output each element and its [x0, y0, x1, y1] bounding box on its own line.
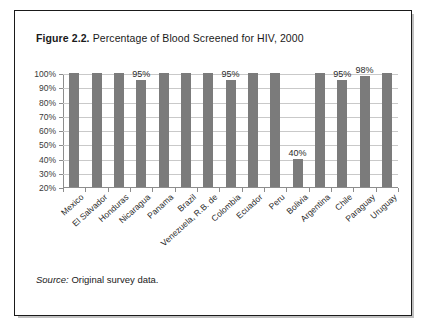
y-axis-tick-label: 80% — [39, 98, 56, 108]
y-axis-tick — [59, 174, 63, 175]
x-axis-tick — [175, 188, 176, 192]
x-axis-tick — [130, 188, 131, 192]
bar — [226, 80, 236, 187]
source-note: Source: Original survey data. — [36, 274, 159, 285]
y-axis-tick-label: 60% — [39, 126, 56, 136]
bar — [181, 73, 191, 187]
x-axis-tick — [152, 188, 153, 192]
y-axis-tick-label: 90% — [39, 83, 56, 93]
x-axis-tick — [398, 188, 399, 192]
bar — [293, 159, 303, 188]
x-axis-tick — [376, 188, 377, 192]
y-axis-tick — [59, 88, 63, 89]
x-axis-tick — [108, 188, 109, 192]
y-axis-tick-label: 100% — [34, 69, 56, 79]
y-axis-tick — [59, 145, 63, 146]
bar — [114, 73, 124, 187]
bar-value-label: 95% — [333, 69, 351, 79]
bar-value-label: 98% — [355, 65, 373, 75]
x-axis-tick — [242, 188, 243, 192]
x-axis-tick — [353, 188, 354, 192]
bar — [69, 73, 79, 187]
y-axis-tick — [59, 131, 63, 132]
x-axis-tick — [331, 188, 332, 192]
bar — [315, 73, 325, 187]
y-axis-tick-label: 40% — [39, 155, 56, 165]
x-axis-tick — [264, 188, 265, 192]
x-axis-tick — [286, 188, 287, 192]
figure-number: Figure 2.2. — [36, 32, 90, 44]
x-axis-tick — [219, 188, 220, 192]
x-axis-tick — [63, 188, 64, 192]
bar — [270, 73, 280, 187]
bar — [159, 73, 169, 187]
y-axis-tick-label: 20% — [39, 183, 56, 193]
y-axis-tick — [59, 117, 63, 118]
bar — [92, 73, 102, 187]
y-axis-tick-label: 70% — [39, 112, 56, 122]
x-axis-tick — [85, 188, 86, 192]
source-prefix: Source: — [36, 274, 69, 285]
bar — [203, 73, 213, 187]
bar — [136, 80, 146, 187]
bar — [248, 73, 258, 187]
chart-plot-area: 100%90%80%70%60%50%40%30%20% 95%95%40%95… — [63, 74, 398, 188]
bar-value-label: 40% — [288, 148, 306, 158]
bar — [337, 80, 347, 187]
x-axis-tick — [309, 188, 310, 192]
x-axis-tick — [197, 188, 198, 192]
y-axis-tick-label: 50% — [39, 140, 56, 150]
y-axis-tick — [59, 74, 63, 75]
bar-value-label: 95% — [221, 69, 239, 79]
y-axis-tick — [59, 103, 63, 104]
bar-value-label: 95% — [132, 69, 150, 79]
figure-panel: Figure 2.2. Percentage of Blood Screened… — [14, 10, 412, 316]
y-axis-tick-label: 30% — [39, 169, 56, 179]
figure-title: Figure 2.2. Percentage of Blood Screened… — [36, 32, 304, 44]
x-axis-line — [63, 187, 398, 188]
y-axis-tick — [59, 160, 63, 161]
source-body: Original survey data. — [69, 274, 159, 285]
bar — [382, 73, 392, 187]
figure-title-text: Percentage of Blood Screened for HIV, 20… — [90, 32, 304, 44]
bar — [360, 76, 370, 187]
